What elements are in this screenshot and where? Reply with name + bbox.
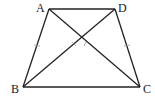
diagonal-bd bbox=[23, 9, 115, 87]
label-d: D bbox=[118, 2, 127, 14]
label-b: B bbox=[11, 83, 19, 95]
label-c: C bbox=[143, 83, 151, 95]
segment-dc bbox=[115, 9, 140, 87]
diagonal-ac bbox=[49, 9, 140, 87]
tick-mark-ab bbox=[34, 45, 40, 46]
tick-mark-dc bbox=[124, 45, 130, 46]
trapezoid-diagram bbox=[0, 0, 155, 98]
tick-mark-ac bbox=[84, 42, 86, 46]
label-a: A bbox=[36, 2, 45, 14]
